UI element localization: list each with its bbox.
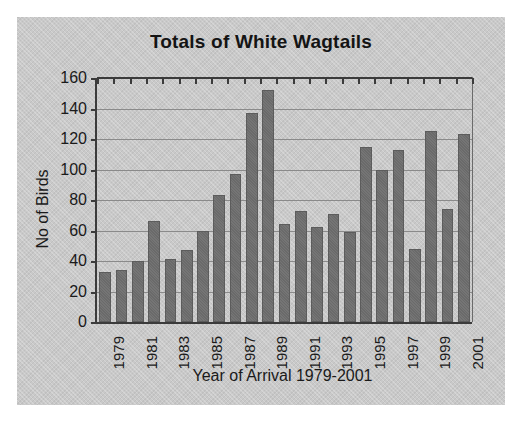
bar: [213, 195, 225, 322]
bar: [295, 211, 307, 322]
bar: [165, 259, 177, 322]
bar: [132, 261, 144, 322]
chart-container: Totals of White Wagtails No of Birds 020…: [17, 17, 505, 405]
x-axis-tick: [130, 78, 132, 84]
bar: [262, 90, 274, 322]
y-axis-tick-label: 80: [39, 191, 87, 209]
bar: [148, 221, 160, 322]
x-axis-tick: [146, 78, 148, 84]
x-axis-tick-label: 1997: [404, 336, 421, 369]
bar: [230, 174, 242, 322]
x-axis-tick-label: 1989: [273, 336, 290, 369]
gridline: [97, 109, 472, 110]
bar: [99, 272, 111, 322]
x-axis-tick-label: 2001: [469, 336, 486, 369]
x-axis-tick: [260, 78, 262, 84]
x-axis-tick: [309, 78, 311, 84]
chart-title: Totals of White Wagtails: [17, 31, 505, 53]
x-axis-tick: [113, 78, 115, 84]
bar: [311, 227, 323, 322]
plot-right-border: [472, 77, 473, 322]
plot-top-border: [97, 77, 472, 79]
y-axis-tick-label: 20: [39, 283, 87, 301]
bar: [458, 134, 470, 322]
x-axis-tick-label: 1981: [143, 336, 160, 369]
bar: [246, 113, 258, 322]
x-axis-tick: [325, 78, 327, 84]
x-axis-tick-label: 1983: [175, 336, 192, 369]
plot-area: [95, 78, 472, 324]
gridline: [97, 139, 472, 140]
x-axis-tick: [244, 78, 246, 84]
x-axis-tick: [358, 78, 360, 84]
y-axis-tick-label: 0: [39, 313, 87, 331]
x-axis-tick: [293, 78, 295, 84]
y-axis-tick: [91, 139, 97, 141]
x-axis-tick: [195, 78, 197, 84]
x-axis-tick: [97, 78, 99, 84]
x-axis-tick: [342, 78, 344, 84]
x-axis-tick-label: 1987: [241, 336, 258, 369]
bar: [197, 231, 209, 323]
x-axis-tick-label: 1991: [306, 336, 323, 369]
bar: [181, 250, 193, 322]
bar: [409, 249, 421, 322]
y-axis-tick: [91, 261, 97, 263]
x-axis-tick: [423, 78, 425, 84]
y-axis-tick: [91, 322, 97, 324]
x-axis-tick: [472, 78, 474, 84]
x-axis-tick: [439, 78, 441, 84]
y-axis-tick: [91, 109, 97, 111]
gridline: [97, 170, 472, 171]
x-axis-tick: [374, 78, 376, 84]
bar: [376, 170, 388, 323]
x-axis-tick-label: 1995: [371, 336, 388, 369]
x-axis-tick: [211, 78, 213, 84]
y-axis-tick: [91, 170, 97, 172]
gridline: [97, 200, 472, 201]
y-axis-tick-label: 60: [39, 222, 87, 240]
x-axis-tick: [276, 78, 278, 84]
x-axis-tick: [407, 78, 409, 84]
y-axis-tick-label: 160: [39, 69, 87, 87]
x-axis-tick-label: 1985: [208, 336, 225, 369]
bar: [344, 232, 356, 322]
y-axis-tick: [91, 292, 97, 294]
y-axis-tick-label: 40: [39, 252, 87, 270]
bar: [279, 224, 291, 322]
x-axis-tick-label: 1999: [436, 336, 453, 369]
x-axis-tick: [162, 78, 164, 84]
bar: [116, 270, 128, 322]
bar: [425, 131, 437, 322]
x-axis-tick: [390, 78, 392, 84]
x-axis-tick: [456, 78, 458, 84]
x-axis-title: Year of Arrival 1979-2001: [95, 367, 470, 385]
y-axis-tick-label: 100: [39, 161, 87, 179]
y-axis-tick: [91, 231, 97, 233]
x-axis-tick: [227, 78, 229, 84]
y-axis-tick-label: 120: [39, 130, 87, 148]
y-axis-tick: [91, 200, 97, 202]
x-axis-tick: [179, 78, 181, 84]
y-axis-tick-label: 140: [39, 100, 87, 118]
x-axis-tick-label: 1993: [338, 336, 355, 369]
bar: [360, 147, 372, 322]
bar: [393, 150, 405, 322]
bar: [328, 214, 340, 322]
bar: [442, 209, 454, 322]
x-axis-tick-label: 1979: [110, 336, 127, 369]
